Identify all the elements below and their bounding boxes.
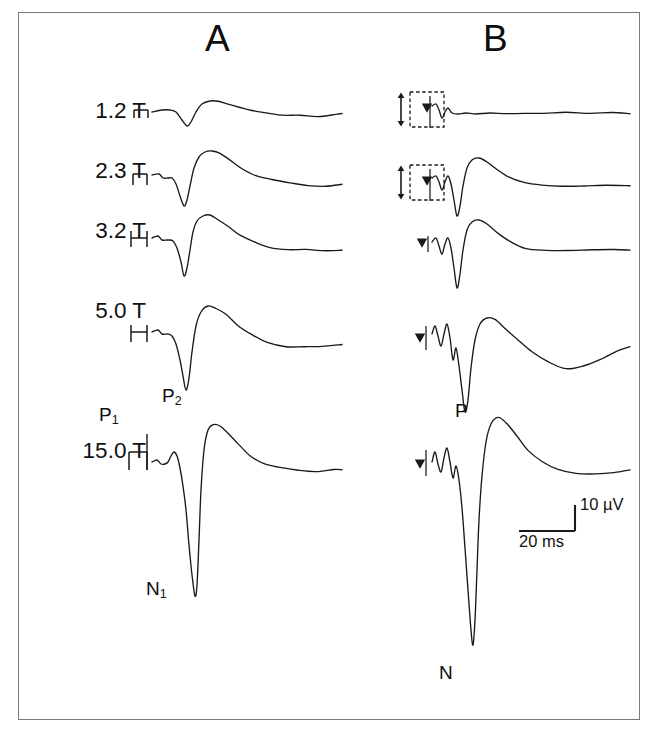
trace-b-2: [432, 158, 630, 216]
stimulus-trigger-triangle: [415, 460, 425, 469]
stimulus-trigger-triangle: [415, 334, 425, 343]
stimulus-artifact-marker: [131, 231, 147, 247]
trace-a-2: [152, 151, 342, 206]
stimulus-trigger-triangle: [422, 104, 432, 113]
trace-b-4: [432, 318, 630, 413]
stimulus-trigger-triangle: [417, 239, 427, 248]
stimulus-artifact-marker: [129, 452, 147, 470]
amplitude-arrow-head-down: [398, 194, 405, 200]
stimulus-artifact-marker: [133, 174, 147, 185]
stimulus-artifact-marker: [134, 110, 148, 118]
stimulus-artifact-marker: [131, 325, 147, 342]
stimulus-trigger-triangle: [422, 177, 432, 186]
trace-a-4: [152, 306, 342, 390]
amplitude-arrow-head-down: [398, 121, 405, 127]
trace-a-5: [152, 424, 342, 596]
amplitude-arrow-head-up: [398, 93, 405, 99]
scale-bar: [519, 505, 575, 531]
trace-a-3: [152, 215, 342, 276]
trace-b-1: [432, 104, 630, 118]
trace-b-3: [432, 220, 630, 288]
amplitude-arrow-head-up: [398, 166, 405, 172]
trace-a-1: [152, 101, 342, 126]
waveform-plot: [0, 0, 659, 735]
